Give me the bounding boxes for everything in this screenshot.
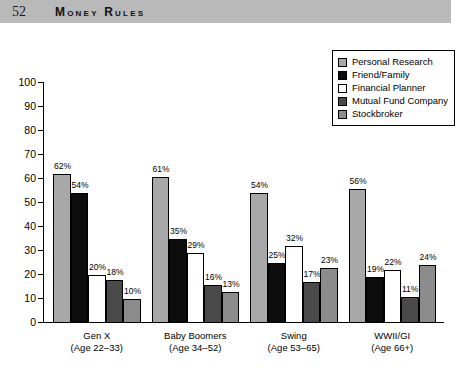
bar-value-label: 24% xyxy=(420,253,437,262)
legend-label: Stockbroker xyxy=(352,109,403,119)
bar-value-label: 17% xyxy=(304,270,321,279)
bar xyxy=(268,263,286,323)
x-axis-group-label: WWII/GI(Age 66+) xyxy=(337,330,447,354)
y-axis-tick xyxy=(38,274,43,275)
bar-value-label: 11% xyxy=(402,285,418,294)
bar-value-label: 10% xyxy=(124,287,141,296)
y-axis-tick-label: 30 xyxy=(2,245,36,255)
bar xyxy=(285,246,303,323)
bar-value-label: 20% xyxy=(89,263,106,272)
bar xyxy=(320,268,338,323)
bar xyxy=(88,275,106,323)
chart-legend: Personal ResearchFriend/FamilyFinancial … xyxy=(332,50,455,126)
bar-value-label: 19% xyxy=(367,265,384,274)
legend-item: Friend/Family xyxy=(338,69,448,81)
bar-value-label: 61% xyxy=(153,165,170,174)
bar xyxy=(123,299,141,323)
legend-item: Personal Research xyxy=(338,56,448,68)
legend-swatch xyxy=(338,84,347,93)
bar xyxy=(401,297,419,323)
legend-item: Financial Planner xyxy=(338,82,448,94)
bar-value-label: 13% xyxy=(223,280,240,289)
bar-value-label: 29% xyxy=(188,241,205,250)
y-axis-tick xyxy=(38,130,43,131)
bar-value-label: 16% xyxy=(205,273,222,282)
bar-value-label: 54% xyxy=(72,181,89,190)
group-name: Swing xyxy=(239,330,349,342)
legend-label: Friend/Family xyxy=(352,70,410,80)
x-axis-group-label: Swing(Age 53–65) xyxy=(239,330,349,354)
y-axis-tick xyxy=(38,298,43,299)
y-axis-tick xyxy=(38,250,43,251)
bar-chart: 0102030405060708090100 62%54%20%18%10%61… xyxy=(0,23,451,369)
bar-value-label: 62% xyxy=(54,162,71,171)
y-axis-labels: 0102030405060708090100 xyxy=(0,82,36,323)
y-axis-tick-label: 50 xyxy=(2,197,36,207)
y-axis-tick-label: 80 xyxy=(2,125,36,135)
bar-value-label: 56% xyxy=(350,177,367,186)
group-name: Gen X xyxy=(42,330,152,342)
y-axis-tick xyxy=(38,82,43,83)
page-header: 52 Money Rules xyxy=(0,0,451,23)
y-axis-tick xyxy=(38,226,43,227)
x-axis-group-label: Baby Boomers(Age 34–52) xyxy=(140,330,250,354)
bar-value-label: 54% xyxy=(251,181,268,190)
page-number: 52 xyxy=(12,4,26,20)
y-axis-tick-label: 20 xyxy=(2,269,36,279)
y-axis-tick xyxy=(38,322,43,323)
bar xyxy=(106,280,124,323)
y-axis-tick-label: 90 xyxy=(2,101,36,111)
bar xyxy=(222,292,240,323)
y-axis-tick-label: 60 xyxy=(2,173,36,183)
bar xyxy=(419,265,437,323)
y-axis-tick-label: 100 xyxy=(2,77,36,87)
bar xyxy=(384,270,402,323)
bar-value-label: 18% xyxy=(107,268,124,277)
y-axis-tick-label: 10 xyxy=(2,293,36,303)
bar-value-label: 23% xyxy=(321,256,338,265)
bar-value-label: 35% xyxy=(170,227,187,236)
y-axis-tick xyxy=(38,202,43,203)
bar xyxy=(53,174,71,323)
x-axis-group-label: Gen X(Age 22–33) xyxy=(42,330,152,354)
legend-item: Mutual Fund Company xyxy=(338,95,448,107)
bar xyxy=(250,193,268,323)
group-age-range: (Age 22–33) xyxy=(42,342,152,354)
group-name: Baby Boomers xyxy=(140,330,250,342)
bar xyxy=(71,193,89,323)
bar xyxy=(366,277,384,323)
y-axis-tick-label: 0 xyxy=(2,317,36,327)
group-age-range: (Age 34–52) xyxy=(140,342,250,354)
legend-swatch xyxy=(338,71,347,80)
legend-label: Personal Research xyxy=(352,57,433,67)
group-name: WWII/GI xyxy=(337,330,447,342)
y-axis-tick-label: 70 xyxy=(2,149,36,159)
bar xyxy=(152,177,170,323)
bar xyxy=(169,239,187,323)
legend-item: Stockbroker xyxy=(338,108,448,120)
y-axis-tick xyxy=(38,178,43,179)
legend-label: Mutual Fund Company xyxy=(352,96,448,106)
legend-swatch xyxy=(338,110,347,119)
group-age-range: (Age 53–65) xyxy=(239,342,349,354)
bar-value-label: 22% xyxy=(385,258,402,267)
bar xyxy=(303,282,321,323)
y-axis-tick-label: 40 xyxy=(2,221,36,231)
bar-value-label: 25% xyxy=(269,251,286,260)
y-axis-tick xyxy=(38,106,43,107)
running-title: Money Rules xyxy=(55,5,145,19)
legend-swatch xyxy=(338,58,347,67)
bar-value-label: 32% xyxy=(286,234,303,243)
bar xyxy=(204,285,222,323)
bar xyxy=(349,189,367,323)
legend-swatch xyxy=(338,97,347,106)
bar xyxy=(187,253,205,323)
group-age-range: (Age 66+) xyxy=(337,342,447,354)
y-axis-tick xyxy=(38,154,43,155)
legend-label: Financial Planner xyxy=(352,83,425,93)
